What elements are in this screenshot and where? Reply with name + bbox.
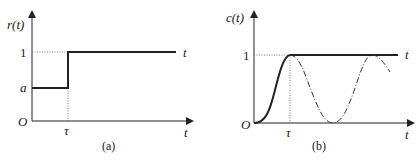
y-axis-label: r(t): [7, 17, 24, 32]
diagram-canvas: r(t) 1 a O τ t t (a) c(t) 1 O τ t t (b): [0, 0, 419, 163]
x-axis-label: t: [184, 125, 188, 140]
caption-b: (b): [312, 139, 326, 153]
step-signal: [32, 52, 176, 88]
panel-b: c(t) 1 O τ t t (b): [226, 10, 413, 153]
response-rise: [254, 55, 290, 123]
origin-label: O: [241, 117, 251, 132]
curve-label: t: [405, 47, 409, 62]
y-tick-1: 1: [20, 45, 27, 60]
panel-a: r(t) 1 a O τ t t (a): [7, 12, 192, 153]
y-tick-1: 1: [243, 48, 250, 63]
curve-label: t: [183, 45, 187, 60]
y-axis-label: c(t): [226, 10, 244, 25]
x-axis-label: t: [405, 127, 409, 142]
oscillation-continuation: [290, 55, 390, 123]
origin-label: O: [18, 114, 28, 129]
y-tick-a: a: [20, 80, 27, 95]
x-tick-tau: τ: [64, 123, 70, 138]
x-tick-tau: τ: [286, 125, 292, 140]
caption-a: (a): [102, 139, 115, 153]
